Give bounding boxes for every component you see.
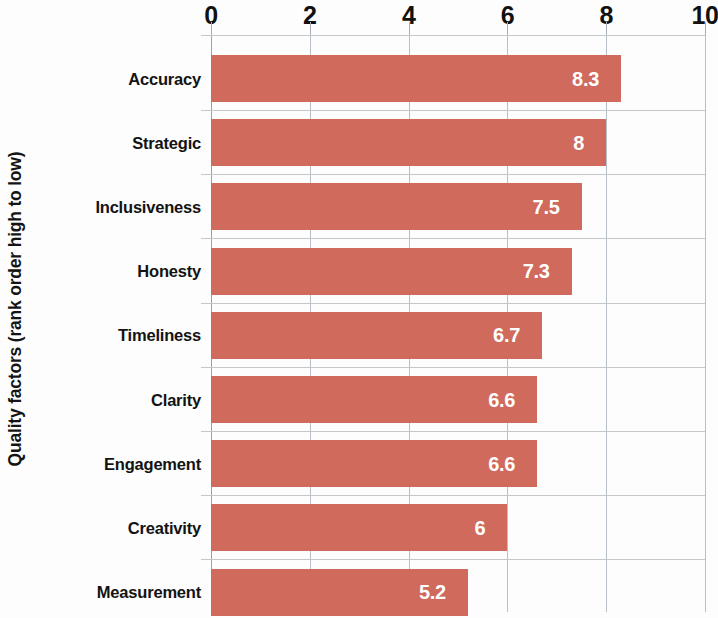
category-label: Clarity <box>11 390 201 409</box>
category-label: Measurement <box>11 583 201 602</box>
category-label: Honesty <box>11 262 201 281</box>
category-label: Accuracy <box>11 69 201 88</box>
category-label-layer: AccuracyStrategicInclusivenessHonestyTim… <box>0 0 718 618</box>
category-label: Engagement <box>11 454 201 473</box>
category-label: Strategic <box>11 133 201 152</box>
category-label: Inclusiveness <box>11 197 201 216</box>
category-label: Creativity <box>11 518 201 537</box>
bar-chart: Quality factors (rank order high to low)… <box>0 0 718 618</box>
category-label: Timeliness <box>11 326 201 345</box>
